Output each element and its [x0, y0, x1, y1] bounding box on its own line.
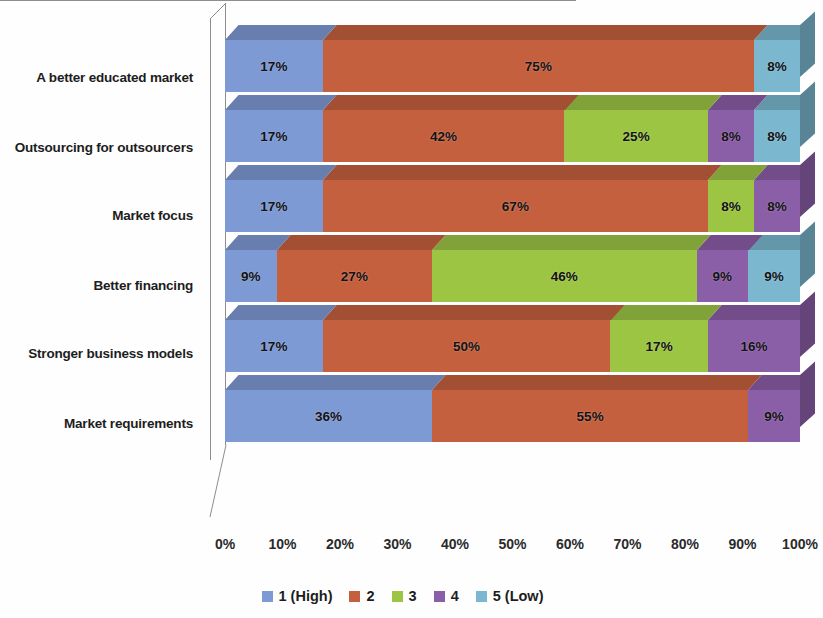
x-axis-tick-label: 100% [773, 536, 823, 552]
y-axis-label: Stronger business models [0, 346, 193, 361]
legend-swatch-icon [262, 591, 273, 602]
x-axis-tick-labels: 0%10%20%30%40%50%60%70%80%90%100% [0, 536, 805, 556]
x-axis-tick-label: 10% [256, 536, 310, 552]
bar-segment: 8% [754, 110, 800, 162]
y-axis-label: Outsourcing for outsourcers [0, 140, 193, 155]
bar-segment: 50% [323, 320, 611, 372]
bar-segment: 55% [432, 390, 748, 442]
legend-label: 4 [451, 588, 459, 604]
x-axis-tick-label: 50% [486, 536, 540, 552]
legend-item[interactable]: 1 (High) [262, 588, 333, 604]
bar-value-label: 8% [721, 129, 741, 144]
bar-segment: 42% [323, 110, 565, 162]
bar-segment: 17% [225, 110, 323, 162]
bar-value-label: 75% [525, 59, 552, 74]
bar-segment: 17% [610, 320, 708, 372]
legend-label: 2 [366, 588, 374, 604]
bar-value-label: 16% [740, 339, 767, 354]
bar-value-label: 9% [764, 269, 784, 284]
bar-value-label: 67% [502, 199, 529, 214]
plot-area: 17%75%8%17%42%25%8%8%17%67%8%8%9%27%46%9… [225, 18, 800, 518]
bar-segment: 67% [323, 180, 708, 232]
bar-row: 9%27%46%9%9% [225, 250, 800, 302]
bar-segment: 25% [564, 110, 708, 162]
x-axis-tick-label: 90% [716, 536, 770, 552]
bar-segment: 9% [748, 250, 800, 302]
bar-value-label: 17% [260, 339, 287, 354]
bar-value-label: 8% [767, 59, 787, 74]
x-axis-tick-label: 40% [428, 536, 482, 552]
legend-swatch-icon [476, 591, 487, 602]
y-axis-label: Market requirements [0, 416, 193, 431]
bar-value-label: 55% [577, 409, 604, 424]
bar-value-label: 17% [260, 59, 287, 74]
bar-segment: 46% [432, 250, 697, 302]
x-axis-tick-label: 30% [371, 536, 425, 552]
x-axis-tick-label: 80% [658, 536, 712, 552]
y-axis-label: Market focus [0, 208, 193, 223]
x-axis-tick-label: 60% [543, 536, 597, 552]
bar-segment: 17% [225, 320, 323, 372]
bar-segment: 36% [225, 390, 432, 442]
bar-value-label: 9% [241, 269, 261, 284]
bar-value-label: 8% [721, 199, 741, 214]
bar-segment: 9% [748, 390, 800, 442]
chart-legend: 1 (High)2345 (Low) [0, 588, 805, 604]
bar-row: 17%75%8% [225, 40, 800, 92]
bar-segment: 75% [323, 40, 754, 92]
bar-segment: 27% [277, 250, 432, 302]
bar-segment: 8% [708, 110, 754, 162]
bar-segment: 8% [754, 180, 800, 232]
legend-swatch-icon [349, 591, 360, 602]
legend-item[interactable]: 5 (Low) [476, 588, 544, 604]
legend-item[interactable]: 4 [434, 588, 459, 604]
y-axis-label: Better financing [0, 278, 193, 293]
bar-row: 17%67%8%8% [225, 180, 800, 232]
bar-segment: 9% [697, 250, 749, 302]
bar-value-label: 46% [551, 269, 578, 284]
bar-segment: 16% [708, 320, 800, 372]
bar-value-label: 9% [713, 269, 733, 284]
bar-value-label: 8% [767, 199, 787, 214]
bar-value-label: 17% [260, 199, 287, 214]
bar-segment: 8% [754, 40, 800, 92]
bar-segment: 17% [225, 180, 323, 232]
legend-label: 5 (Low) [493, 588, 544, 604]
y-axis-label: A better educated market [0, 70, 193, 85]
legend-item[interactable]: 3 [392, 588, 417, 604]
legend-label: 3 [409, 588, 417, 604]
bar-value-label: 25% [623, 129, 650, 144]
bar-value-label: 17% [260, 129, 287, 144]
bar-value-label: 50% [453, 339, 480, 354]
bar-segment: 17% [225, 40, 323, 92]
bar-value-label: 17% [646, 339, 673, 354]
bar-value-label: 8% [767, 129, 787, 144]
bar-row: 36%55%9% [225, 390, 800, 442]
legend-swatch-icon [392, 591, 403, 602]
x-axis-tick-label: 20% [313, 536, 367, 552]
bar-value-label: 27% [341, 269, 368, 284]
bar-value-label: 36% [315, 409, 342, 424]
legend-item[interactable]: 2 [349, 588, 374, 604]
bar-row: 17%50%17%16% [225, 320, 800, 372]
axis-wall-back-edge [210, 18, 211, 460]
bar-row: 17%42%25%8%8% [225, 110, 800, 162]
x-axis-line [0, 0, 576, 1]
x-axis-tick-label: 70% [601, 536, 655, 552]
legend-swatch-icon [434, 591, 445, 602]
bar-segment: 8% [708, 180, 754, 232]
bar-value-label: 9% [764, 409, 784, 424]
bar-value-label: 42% [430, 129, 457, 144]
x-axis-tick-label: 0% [198, 536, 252, 552]
legend-label: 1 (High) [279, 588, 333, 604]
bar-segment: 9% [225, 250, 277, 302]
